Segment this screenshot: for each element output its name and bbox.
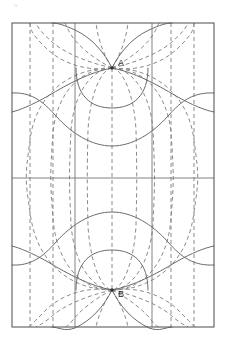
corner-mark: o [14,1,18,9]
field-line-2-right [112,68,173,290]
field-line-2-left [51,68,112,290]
equipotential-wave-top [12,93,214,146]
field-line-crown-lower-right [112,289,194,327]
pole-a-dot [110,66,114,70]
field-line-3-right [112,68,155,290]
field-plot-svg: A B [0,0,225,343]
field-line-4-left [87,68,112,290]
field-line-lower-steep-left [96,290,112,327]
equipotential-inner-bottom [76,250,148,290]
field-line-upper-steep-left [96,23,112,68]
field-line-crown-left [30,23,112,69]
equipotential-inner-top [76,68,148,108]
field-line-crown-lower-left [30,289,112,327]
pole-b-group: B [110,288,124,299]
pole-a-label: A [118,58,124,68]
field-line-lower-mid-left [65,290,112,327]
field-line-4-right [112,68,137,290]
pole-b-label: B [118,289,124,299]
field-line-3-left [70,68,113,290]
equipotential-top-arc-left [52,23,112,68]
equipotential-wave-bottom [12,212,214,265]
figure-root: o [0,0,225,343]
field-line-crown-right [112,23,194,69]
pole-b-dot [110,288,114,292]
